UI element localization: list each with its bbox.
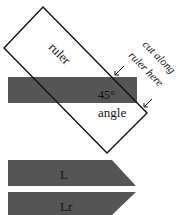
angle-label: angle (98, 105, 126, 120)
strip-lr-label: Lr (60, 199, 73, 214)
diagram-canvas: ruler 45° angle cut along ruler here L L… (0, 0, 184, 215)
strip-l-label: L (60, 167, 68, 182)
arrow-icon (115, 66, 124, 75)
ruler-label: ruler (46, 40, 74, 68)
arrow-icon (144, 99, 152, 107)
strip-l (8, 160, 136, 186)
fabric-strip (8, 77, 137, 103)
angle-value: 45° (98, 88, 115, 102)
